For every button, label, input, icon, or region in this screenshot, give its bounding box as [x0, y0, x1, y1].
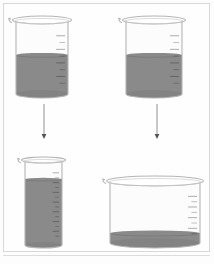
target-beaker-wide-shallow[interactable] [104, 175, 206, 254]
pour-arrow-left [39, 99, 49, 144]
source-beaker-left[interactable] [10, 14, 74, 104]
source-beaker-right[interactable] [120, 14, 188, 104]
pour-arrow-right [152, 99, 162, 144]
figure-canvas [0, 0, 214, 264]
target-beaker-tall-narrow[interactable] [19, 154, 68, 254]
figure-bottom-rule [3, 255, 210, 256]
